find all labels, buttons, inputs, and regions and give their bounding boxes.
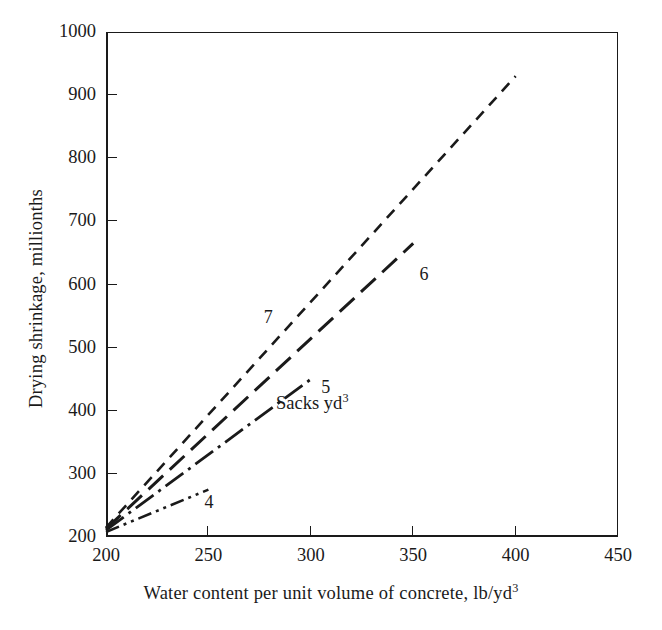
- sacks-annotation: Sacks yd3: [276, 394, 348, 413]
- x-axis-tick: [515, 526, 516, 537]
- x-axis-tick-label: 200: [71, 546, 141, 564]
- x-axis-tick: [412, 526, 413, 537]
- sacks-annotation-text: Sacks yd: [276, 393, 342, 413]
- x-axis-tick-label: 400: [481, 546, 551, 564]
- plot-frame: [106, 32, 618, 537]
- y-axis-tick: [106, 94, 117, 95]
- y-axis-tick-label: 1000: [34, 22, 96, 40]
- y-axis-tick: [106, 220, 117, 221]
- y-axis-tick-label: 200: [34, 527, 96, 545]
- figure-container: 2003004005006007008009001000200250300350…: [0, 0, 662, 630]
- x-axis-tick: [310, 526, 311, 537]
- y-axis-tick-label: 300: [34, 464, 96, 482]
- y-axis-tick: [106, 473, 117, 474]
- y-axis-tick: [106, 410, 117, 411]
- y-axis-tick: [106, 157, 117, 158]
- y-axis-tick-label: 900: [34, 85, 96, 103]
- series-label-6: 6: [419, 265, 428, 283]
- x-axis-title: Water content per unit volume of concret…: [0, 583, 662, 604]
- y-axis-tick: [106, 347, 117, 348]
- x-axis-tick-label: 350: [378, 546, 448, 564]
- x-axis-tick-label: 250: [173, 546, 243, 564]
- x-axis-tick: [207, 526, 208, 537]
- x-axis-tick-label: 450: [583, 546, 653, 564]
- series-label-7: 7: [264, 308, 273, 326]
- x-axis-title-text: Water content per unit volume of concret…: [143, 583, 512, 603]
- x-axis-tick-label: 300: [276, 546, 346, 564]
- x-axis-title-superscript: 3: [512, 581, 518, 595]
- y-axis-tick: [106, 284, 117, 285]
- y-axis-tick-label: 800: [34, 148, 96, 166]
- sacks-annotation-superscript: 3: [342, 391, 348, 405]
- series-label-4: 4: [204, 493, 213, 511]
- y-axis-title: Drying shrinkage, millionths: [26, 189, 47, 408]
